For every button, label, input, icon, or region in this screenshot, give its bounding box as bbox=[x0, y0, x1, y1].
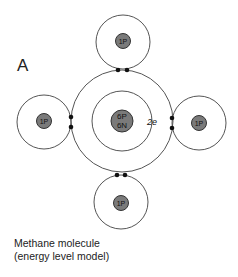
hydrogen-right-label: 1P bbox=[195, 120, 204, 127]
figure-caption: Methane molecule (energy level model) bbox=[14, 237, 109, 263]
electron-top-1 bbox=[116, 68, 121, 73]
electron-top-2 bbox=[125, 68, 130, 73]
hydrogen-top-label: 1P bbox=[119, 38, 128, 45]
hydrogen-left-label: 1P bbox=[40, 118, 49, 125]
caption-line-2: (energy level model) bbox=[14, 250, 109, 263]
hydrogen-bottom-label: 1P bbox=[117, 200, 126, 207]
electron-right-2 bbox=[170, 126, 175, 131]
caption-line-1: Methane molecule bbox=[14, 237, 109, 250]
electron-left-1 bbox=[69, 115, 74, 120]
carbon-nucleus-label-1: 6P bbox=[117, 112, 127, 121]
electron-bottom-2 bbox=[123, 173, 128, 178]
electron-bottom-1 bbox=[115, 173, 120, 178]
electron-right-1 bbox=[170, 116, 175, 121]
carbon-shell-label: 2e bbox=[146, 117, 157, 127]
electron-left-2 bbox=[69, 125, 74, 130]
carbon-nucleus-label-2: 6N bbox=[117, 121, 127, 130]
methane-diagram: 6P 6N 1P 1P 1P 1P 2e bbox=[0, 0, 238, 277]
